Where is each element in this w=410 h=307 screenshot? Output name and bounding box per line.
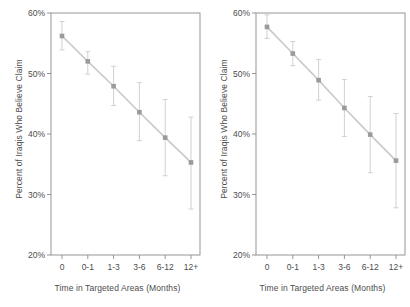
y-tick-label: 30% xyxy=(28,190,45,200)
x-tick-label: 0 xyxy=(265,262,270,272)
data-point-marker xyxy=(60,34,65,39)
y-tick-label: 40% xyxy=(28,129,45,139)
y-tick-label: 60% xyxy=(28,8,45,18)
y-tick-label: 20% xyxy=(28,250,45,260)
data-point-marker xyxy=(163,135,168,140)
x-tick-label: 12+ xyxy=(389,262,403,272)
x-tick-label: 6-12 xyxy=(362,262,379,272)
x-tick-label: 6-12 xyxy=(157,262,174,272)
data-point-marker xyxy=(291,51,296,56)
series-line xyxy=(267,27,396,161)
data-point-marker xyxy=(137,110,142,115)
figure-root: Percent of Iraqis Who Believe Claim Time… xyxy=(0,0,410,307)
chart-panel-right: Percent of Iraqis Who Believe Claim Time… xyxy=(205,0,410,307)
data-point-marker xyxy=(316,78,321,83)
y-tick-label: 60% xyxy=(233,8,250,18)
y-tick-label: 20% xyxy=(233,250,250,260)
plot-frame xyxy=(51,13,200,255)
x-tick-label: 1-3 xyxy=(107,262,120,272)
x-tick-label: 0-1 xyxy=(82,262,95,272)
plot-area-right: 20%30%40%50%60%00-11-33-66-1212+ xyxy=(205,0,410,307)
x-tick-label: 0 xyxy=(60,262,65,272)
x-tick-label: 1-3 xyxy=(312,262,325,272)
x-tick-label: 12+ xyxy=(184,262,198,272)
data-point-marker xyxy=(368,132,373,137)
y-tick-label: 50% xyxy=(233,69,250,79)
x-tick-label: 3-6 xyxy=(338,262,351,272)
data-point-marker xyxy=(86,59,91,64)
data-point-marker xyxy=(394,158,399,163)
series-line xyxy=(62,36,191,162)
y-tick-label: 50% xyxy=(28,69,45,79)
x-tick-label: 3-6 xyxy=(133,262,146,272)
data-point-marker xyxy=(265,25,270,30)
chart-panel-left: Percent of Iraqis Who Believe Claim Time… xyxy=(0,0,205,307)
y-tick-label: 40% xyxy=(233,129,250,139)
x-tick-label: 0-1 xyxy=(287,262,300,272)
data-point-marker xyxy=(111,84,116,89)
data-point-marker xyxy=(342,106,347,111)
y-tick-label: 30% xyxy=(233,190,250,200)
plot-frame xyxy=(256,13,405,255)
data-point-marker xyxy=(189,160,194,165)
plot-area-left: 20%30%40%50%60%00-11-33-66-1212+ xyxy=(0,0,205,307)
